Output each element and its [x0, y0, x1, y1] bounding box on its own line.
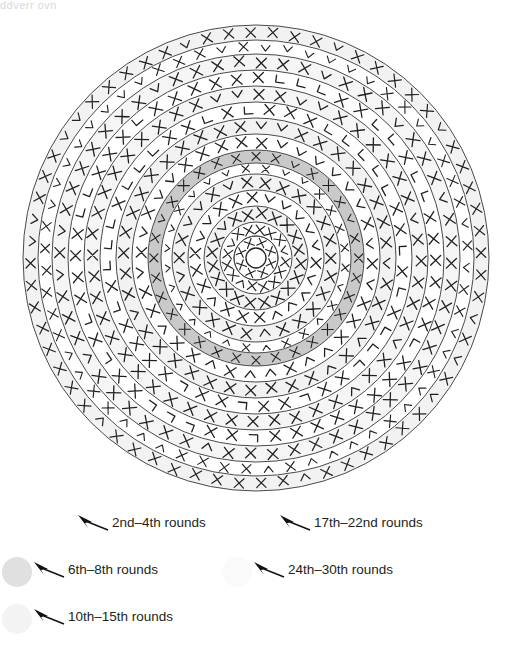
legend-label: 10th–15th rounds: [68, 608, 173, 626]
arrow-pointer-left-icon: [278, 512, 312, 534]
legend: 2nd–4th rounds 6th–8th rounds 10th–15th …: [0, 500, 507, 648]
legend-color-swatch: [2, 557, 32, 587]
legend-label: 6th–8th rounds: [68, 561, 158, 579]
arrow-pointer-left-icon: [32, 606, 66, 628]
legend-color-swatch: [2, 604, 32, 634]
crochet-chart-container: [0, 0, 507, 500]
legend-color-swatch: [222, 557, 252, 587]
crochet-round-diagram: [0, 0, 507, 500]
legend-label: 24th–30th rounds: [288, 561, 393, 579]
arrow-pointer-left-icon: [76, 512, 110, 534]
arrow-pointer-left-icon: [252, 559, 286, 581]
legend-label: 2nd–4th rounds: [112, 514, 206, 532]
arrow-pointer-left-icon: [32, 559, 66, 581]
legend-label: 17th–22nd rounds: [314, 514, 423, 532]
